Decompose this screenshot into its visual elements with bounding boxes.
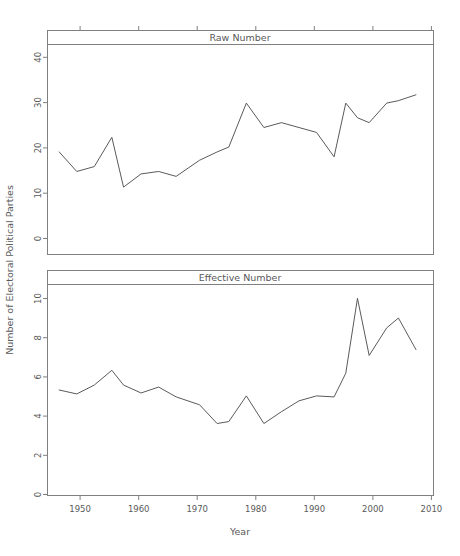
y-tick-bottom-6: 6 [33,374,43,379]
y-tick-top-30: 30 [33,97,43,108]
x-axis-top [80,26,431,31]
x-tick-2010: 2010 [421,504,443,514]
y-tick-top-0: 0 [33,236,43,241]
y-tick-bottom-2: 2 [33,453,43,458]
x-tick-1960: 1960 [128,504,150,514]
panel-title-top: Raw Number [209,32,270,43]
x-tick-1970: 1970 [186,504,208,514]
y-axis-top: 0 10 20 30 40 [33,52,48,241]
series-line-effective-number [59,298,416,423]
y-tick-bottom-4: 4 [33,413,43,418]
panel-border-bottom [48,285,434,496]
y-tick-top-10: 10 [33,188,43,199]
y-tick-top-20: 20 [33,142,43,153]
x-axis-title: Year [229,526,250,537]
y-tick-top-40: 40 [33,52,43,63]
y-axis-title: Number of Electoral Political Parties [4,185,15,355]
panel-effective-number: Effective Number 0 2 4 6 8 10 [33,271,442,515]
chart-figure: Raw Number 0 10 20 30 40 [0,0,460,556]
plot-canvas: Raw Number 0 10 20 30 40 [0,0,460,556]
y-tick-bottom-0: 0 [33,492,43,497]
panel-title-bottom: Effective Number [199,272,282,283]
x-tick-1980: 1980 [245,504,267,514]
x-tick-1990: 1990 [303,504,325,514]
x-axis-bottom: 1950 1960 1970 1980 1990 2000 2010 [69,496,442,515]
y-tick-bottom-10: 10 [33,293,43,304]
y-axis-bottom: 0 2 4 6 8 10 [33,293,48,497]
x-tick-2000: 2000 [362,504,384,514]
panel-raw-number: Raw Number 0 10 20 30 40 [33,26,434,255]
series-line-raw-number [59,95,416,187]
panel-border-top [48,45,434,255]
y-tick-bottom-8: 8 [33,335,43,340]
x-tick-1950: 1950 [69,504,91,514]
